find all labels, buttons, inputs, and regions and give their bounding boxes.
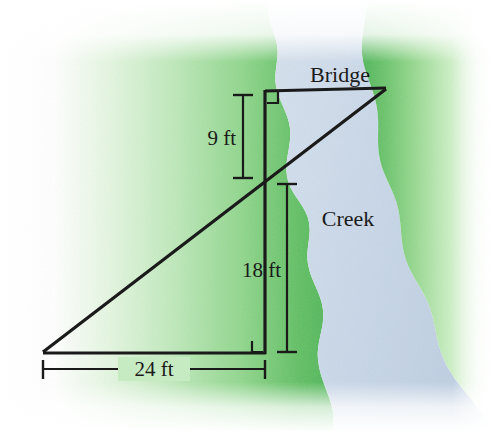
right-fade <box>452 0 495 432</box>
dimension-label-18ft: 18 ft <box>242 258 281 282</box>
scenery-background <box>0 0 495 432</box>
left-fade <box>0 0 54 432</box>
bottom-fade <box>0 382 495 432</box>
diagram-canvas: 9 ft 18 ft 24 ft Bridge Creek <box>0 0 495 432</box>
label-bridge: Bridge <box>310 62 370 87</box>
dimension-label-9ft: 9 ft <box>207 126 236 150</box>
dimension-label-24ft: 24 ft <box>134 357 173 381</box>
label-creek: Creek <box>322 206 375 231</box>
geometry-figure: 9 ft 18 ft 24 ft Bridge Creek <box>0 0 495 432</box>
top-fade <box>0 0 495 62</box>
